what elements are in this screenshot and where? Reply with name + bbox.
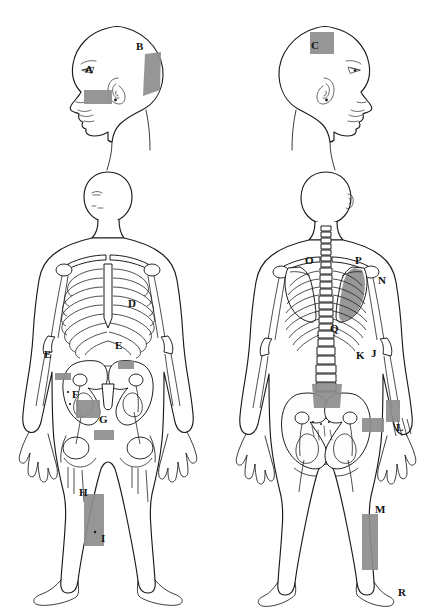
- marker-region-e-right: [55, 373, 71, 380]
- marker-region-e-left: [118, 361, 134, 369]
- marker-region-a: [84, 90, 112, 104]
- label-o: O: [305, 255, 314, 266]
- marker-region-f: [76, 400, 100, 418]
- label-c: C: [311, 40, 319, 51]
- label-j: J: [371, 348, 377, 359]
- label-g: G: [99, 414, 108, 425]
- figure-head-right: [252, 14, 392, 144]
- label-f: F: [72, 389, 79, 400]
- label-l: L: [396, 422, 403, 433]
- label-e1: E: [44, 349, 51, 360]
- label-q: Q: [330, 323, 339, 334]
- label-i: I: [101, 533, 105, 544]
- figure-body-anterior: [8, 168, 208, 598]
- label-e2: E: [115, 340, 122, 351]
- label-b: B: [136, 41, 143, 52]
- label-m: M: [375, 504, 385, 515]
- figure-head-left: [50, 14, 190, 144]
- label-a: A: [85, 64, 93, 75]
- anatomy-diagram: A B C: [0, 0, 424, 613]
- label-k: K: [356, 350, 365, 361]
- marker-region-j: [362, 418, 384, 432]
- marker-region-g: [94, 430, 114, 440]
- marker-region-q-k: [312, 384, 342, 408]
- figure-body-posterior: [226, 168, 424, 598]
- marker-region-l: [386, 400, 400, 422]
- label-r: R: [398, 587, 406, 598]
- marker-region-m: [362, 514, 378, 570]
- label-h: H: [79, 487, 88, 498]
- label-d: D: [128, 298, 136, 309]
- marker-region-b: [143, 52, 161, 96]
- label-n: N: [378, 275, 386, 286]
- label-p: P: [355, 255, 362, 266]
